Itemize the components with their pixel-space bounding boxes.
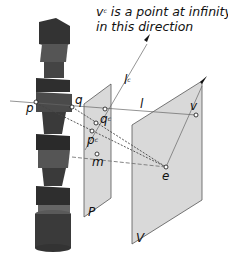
caption: vc is a point at infinity in this direct… (96, 4, 228, 34)
label-pc: pc (87, 134, 98, 146)
label-l: l (140, 98, 143, 110)
point-qc (94, 121, 98, 125)
diagram-canvas: vc is a point at infinity in this direct… (0, 0, 228, 262)
arrow-v-icon (200, 76, 207, 84)
label-m: m (92, 156, 104, 168)
label-qc: qc (100, 113, 111, 125)
plane-P (84, 84, 111, 217)
diagram-svg (0, 0, 228, 262)
point-lP (103, 107, 107, 111)
label-V: V (136, 232, 144, 244)
point-v (194, 113, 198, 117)
label-q: q (75, 94, 83, 106)
point-q (70, 105, 74, 109)
label-lc: lc (124, 74, 131, 86)
label-P: P (88, 206, 95, 218)
point-p (34, 100, 38, 104)
label-v: v (190, 100, 197, 112)
arrow-lc-icon (144, 34, 150, 42)
label-p: p (26, 102, 34, 114)
label-e: e (162, 170, 169, 182)
tower-object (35, 18, 72, 252)
